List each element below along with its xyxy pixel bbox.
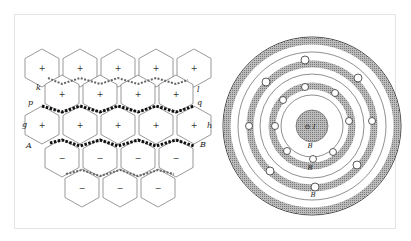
svg-text:+: + (153, 121, 160, 130)
label-l: l (197, 85, 200, 94)
svg-text:B: B (309, 191, 315, 199)
svg-text:−: − (117, 184, 124, 193)
svg-text:+: + (115, 64, 122, 73)
hex-vortex-diagram: +++++ ++++ +++++ −−−− −−− ⊙ I B B B (0, 0, 411, 241)
svg-text:⊙ I: ⊙ I (305, 123, 316, 131)
label-A: A (26, 141, 32, 150)
svg-text:+: + (39, 121, 46, 130)
svg-text:+: + (39, 64, 46, 73)
svg-text:+: + (135, 90, 142, 99)
svg-text:−: − (155, 184, 162, 193)
svg-text:−: − (59, 154, 66, 163)
label-B: B (200, 140, 206, 149)
svg-text:+: + (173, 90, 180, 99)
label-g: g (22, 120, 27, 129)
svg-text:+: + (97, 90, 104, 99)
svg-text:+: + (59, 90, 66, 99)
label-k: k (36, 83, 41, 92)
svg-text:+: + (115, 121, 122, 130)
svg-text:B: B (306, 142, 312, 150)
svg-text:−: − (173, 154, 180, 163)
label-q: q (197, 98, 202, 107)
svg-text:−: − (97, 154, 104, 163)
label-p: p (28, 98, 33, 107)
svg-text:+: + (77, 121, 84, 130)
svg-text:+: + (191, 121, 198, 130)
svg-text:+: + (191, 64, 198, 73)
svg-text:+: + (153, 64, 160, 73)
label-h: h (207, 121, 212, 130)
svg-text:−: − (135, 154, 142, 163)
svg-text:+: + (77, 64, 84, 73)
svg-text:B: B (306, 164, 312, 172)
svg-text:−: − (79, 184, 86, 193)
